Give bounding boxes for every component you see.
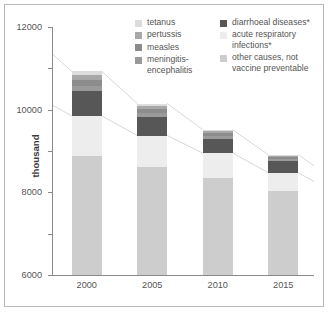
bar-segment [137, 117, 167, 136]
legend-item-tetanus: tetanus [135, 17, 217, 27]
bar-2010 [203, 130, 233, 275]
connector-line [53, 55, 72, 72]
bar-2015 [268, 155, 298, 275]
y-axis-title: thousand [30, 134, 41, 177]
y-tick-mark: 6000 [48, 151, 52, 152]
bar-segment [72, 116, 102, 156]
bar-segment [268, 161, 298, 172]
legend-item-diarrhoeal-diseases: diarrhoeal diseases* [220, 17, 323, 27]
chart-frame: tetanus pertussis measles meningitis- en… [4, 4, 324, 307]
y-axis-line [52, 27, 53, 276]
x-tick-label: 2000 [57, 280, 117, 290]
y-tick-label: 12000 [16, 22, 42, 32]
bar-segment [203, 178, 233, 275]
legend-swatch-tetanus [135, 20, 142, 27]
connector-line [233, 130, 269, 155]
bar-2005 [137, 104, 167, 276]
bar-segment [268, 173, 298, 192]
bar-segment [268, 191, 298, 275]
x-tick-label: 2005 [122, 280, 182, 290]
plot-area: 020004000600080001000012000 200020052010… [52, 27, 314, 276]
y-tick-label: 10000 [16, 105, 42, 115]
connector-line [298, 155, 314, 166]
x-tick-label: 2010 [188, 280, 248, 290]
legend-swatch-diarrhoeal-diseases [220, 20, 227, 27]
y-tick-mark: 0 [48, 275, 52, 276]
y-tick-label: 6000 [22, 270, 42, 280]
bar-segment [137, 167, 167, 276]
connector-line [167, 103, 203, 129]
bar-segment [203, 139, 233, 153]
x-axis-line [52, 275, 314, 276]
y-tick-label: 8000 [22, 187, 42, 197]
legend-label-tetanus: tetanus [147, 17, 175, 27]
legend-label-diarrhoeal-diseases: diarrhoeal diseases* [232, 17, 310, 27]
connector-line [233, 153, 269, 173]
bar-segment [137, 136, 167, 167]
bar-2000 [72, 71, 102, 275]
y-tick-mark: 4000 [48, 192, 52, 193]
bar-segment [72, 156, 102, 275]
connector-line [102, 116, 138, 136]
y-tick-mark: 12000 [48, 27, 52, 28]
connector-line [102, 71, 138, 103]
y-tick-mark: 8000 [48, 110, 52, 111]
bar-segment [203, 153, 233, 178]
connector-line [298, 173, 314, 182]
bar-segment [72, 91, 102, 116]
chart-figure: tetanus pertussis measles meningitis- en… [0, 0, 328, 315]
x-tick-label: 2015 [253, 280, 313, 290]
y-tick-mark: 2000 [48, 234, 52, 235]
connector-line [53, 105, 72, 115]
y-tick-mark: 10000 [48, 68, 52, 69]
connector-line [167, 136, 203, 154]
